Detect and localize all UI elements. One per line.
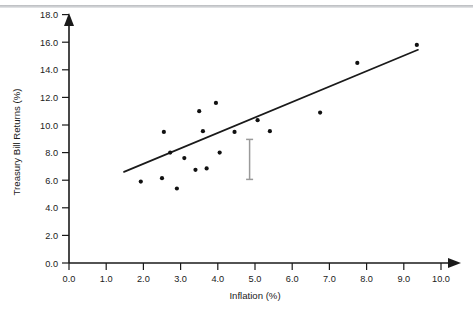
- scatter-point: [415, 43, 419, 47]
- y-tick-1: 2.0: [45, 231, 69, 241]
- y-tick-label: 14.0: [40, 65, 58, 75]
- x-tick-label: 9.0: [397, 274, 410, 284]
- x-tick-label: 5.0: [249, 274, 262, 284]
- y-tick-7: 14.0: [40, 65, 69, 75]
- x-tick-3: 3.0: [174, 263, 187, 284]
- x-tick-7: 7.0: [323, 263, 336, 284]
- scatter-point-group: [139, 43, 419, 191]
- x-tick-2: 2.0: [137, 263, 150, 284]
- scatter-point: [214, 101, 218, 105]
- x-tick-label: 7.0: [323, 274, 336, 284]
- x-tick-5: 5.0: [249, 263, 262, 284]
- x-tick-1: 1.0: [100, 263, 113, 284]
- scatter-point: [318, 110, 322, 114]
- y-tick-label: 0.0: [45, 259, 58, 269]
- x-tick-label: 0.0: [63, 274, 76, 284]
- y-tick-label: 16.0: [40, 38, 58, 48]
- x-tick-label: 8.0: [360, 274, 373, 284]
- scatter-point: [205, 166, 209, 170]
- y-axis-ticks: 0.0 2.0 4.0 6.0 8.0 10.0 12.0 14.0 16.0 …: [40, 10, 69, 268]
- x-tick-0: 0.0: [63, 263, 76, 284]
- scatter-point: [197, 109, 201, 113]
- x-axis-arrow-icon: [448, 258, 461, 268]
- x-tick-9: 9.0: [397, 263, 410, 284]
- y-tick-4: 8.0: [45, 148, 69, 158]
- x-tick-4: 4.0: [211, 263, 224, 284]
- y-tick-label: 12.0: [40, 93, 58, 103]
- x-tick-10: 10.0: [432, 263, 450, 284]
- x-axis-ticks: 0.0 1.0 2.0 3.0 4.0 5.0 6.0 7.0 8.0 9.0 …: [63, 263, 450, 284]
- y-tick-label: 8.0: [45, 148, 58, 158]
- x-tick-label: 10.0: [432, 274, 450, 284]
- x-tick-label: 3.0: [174, 274, 187, 284]
- y-tick-0: 0.0: [45, 259, 69, 269]
- x-tick-label: 2.0: [137, 274, 150, 284]
- y-tick-label: 2.0: [45, 231, 58, 241]
- y-tick-label: 6.0: [45, 176, 58, 186]
- x-tick-6: 6.0: [286, 263, 299, 284]
- scatter-point: [162, 130, 166, 134]
- scatter-point: [175, 186, 179, 190]
- scatter-point: [193, 168, 197, 172]
- y-tick-label: 4.0: [45, 203, 58, 213]
- y-tick-label: 10.0: [40, 121, 58, 131]
- y-tick-3: 6.0: [45, 176, 69, 186]
- scatter-point: [256, 118, 260, 122]
- y-tick-5: 10.0: [40, 121, 69, 131]
- scatter-point: [168, 151, 172, 155]
- scatter-point: [232, 130, 236, 134]
- x-axis-title: Inflation (%): [229, 290, 280, 301]
- error-bar-marker: [246, 139, 253, 179]
- y-tick-2: 4.0: [45, 203, 69, 213]
- scatter-point: [160, 176, 164, 180]
- scatter-point: [182, 156, 186, 160]
- y-tick-8: 16.0: [40, 38, 69, 48]
- scatter-point: [268, 129, 272, 133]
- x-tick-label: 6.0: [286, 274, 299, 284]
- y-axis-title: Treasury Bill Returns (%): [11, 89, 22, 196]
- scatter-chart: 0.0 2.0 4.0 6.0 8.0 10.0 12.0 14.0 16.0 …: [0, 0, 473, 310]
- y-tick-6: 12.0: [40, 93, 69, 103]
- y-tick-9: 18.0: [40, 10, 69, 20]
- x-tick-label: 1.0: [100, 274, 113, 284]
- scatter-point: [139, 179, 143, 183]
- axes-frame: [64, 13, 461, 268]
- figure-container: 0.0 2.0 4.0 6.0 8.0 10.0 12.0 14.0 16.0 …: [0, 0, 473, 310]
- scatter-point: [355, 61, 359, 65]
- scatter-point: [218, 151, 222, 155]
- x-tick-label: 4.0: [211, 274, 224, 284]
- y-tick-label: 18.0: [40, 10, 58, 20]
- top-divider-rule: [0, 5, 473, 8]
- scatter-point: [201, 129, 205, 133]
- regression-trendline: [124, 50, 418, 172]
- x-tick-8: 8.0: [360, 263, 373, 284]
